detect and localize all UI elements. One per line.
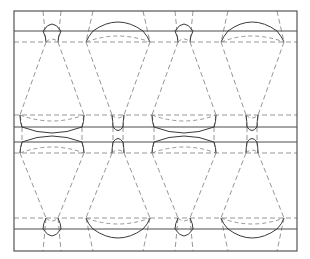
tiling-diagram — [0, 0, 310, 259]
background — [0, 0, 310, 259]
figure-container: Periodic tiling diagram with cone and le… — [0, 0, 310, 259]
